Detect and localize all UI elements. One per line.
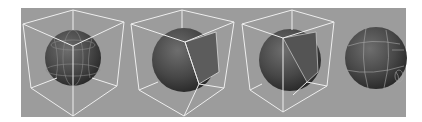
sphere-result [345,27,407,89]
sphere [345,27,407,89]
sphere-in-cube-1 [23,10,124,116]
sphere-in-cube-2 [131,10,234,116]
render-figure [0,0,422,122]
cube-front-edges [23,10,124,116]
sphere-in-cube-3 [242,10,334,112]
